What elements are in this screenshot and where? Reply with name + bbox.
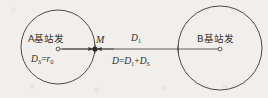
label-station-a: A基站发 (28, 34, 65, 44)
sum-term2-subscript: S (147, 60, 150, 67)
sum-lhs-symbol: D (112, 56, 119, 66)
d1-subscript: 1 (138, 37, 141, 44)
center-marker-b (218, 47, 222, 51)
ds-subscript: S (38, 58, 41, 65)
d1-symbol: D (131, 33, 138, 43)
label-radius-ds: DS=r0 (31, 55, 53, 65)
figure-diagram: A基站发 DS=r0 M D1 D=D1+DS B基站发 (0, 0, 268, 98)
label-station-b: B基站发 (197, 34, 234, 44)
sum-term2-symbol: D (140, 56, 147, 66)
label-distance-sum-equation: D=D1+DS (112, 57, 150, 67)
sum-term1-subscript: 1 (131, 60, 134, 67)
point-m-marker (92, 46, 97, 51)
ds-symbol: D (31, 54, 38, 64)
diagram-canvas (0, 0, 268, 98)
label-midpoint-m: M (96, 35, 104, 45)
r0-subscript: 0 (50, 58, 53, 65)
label-distance-d1: D1 (131, 34, 141, 44)
center-marker-a (56, 47, 60, 51)
